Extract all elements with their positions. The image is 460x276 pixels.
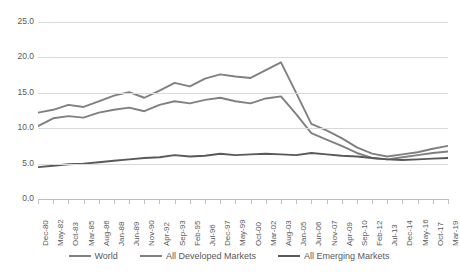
legend-label: All Emerging Markets: [304, 251, 390, 261]
x-axis-tick-label: Mar-19: [452, 221, 460, 246]
y-axis-tick-label: 0.0: [0, 194, 34, 203]
gridline: [38, 164, 448, 165]
x-axis-tick-label: Aug-86: [103, 220, 111, 246]
x-axis-tick-label: Dec-14: [406, 220, 414, 246]
x-axis-tick: [175, 199, 176, 204]
x-axis-tick: [84, 199, 85, 204]
x-axis-tick-label: Oct-00: [255, 222, 263, 246]
x-axis-tick: [235, 199, 236, 204]
x-axis-tick-label: Mar-02: [270, 221, 278, 246]
x-axis-tick-label: May-16: [422, 219, 430, 246]
x-axis-tick: [281, 199, 282, 204]
x-axis-tick: [190, 199, 191, 204]
y-axis-labels: 0.05.010.015.020.025.0: [0, 0, 34, 276]
plot-area: [38, 22, 448, 199]
x-axis-tick: [402, 199, 403, 204]
legend-swatch-icon: [69, 255, 91, 257]
x-axis-tick-label: Aug-03: [285, 220, 293, 246]
x-axis-tick-label: Apr-09: [346, 222, 354, 246]
x-axis-tick: [387, 199, 388, 204]
legend-swatch-icon: [278, 255, 300, 257]
x-axis-tick: [38, 199, 39, 204]
x-axis-tick: [144, 199, 145, 204]
x-axis-tick-label: Jul-96: [209, 224, 217, 246]
chart-legend: WorldAll Developed MarketsAll Emerging M…: [0, 251, 458, 261]
x-axis-tick-label: Apr-92: [163, 222, 171, 246]
y-axis-tick-label: 10.0: [0, 123, 34, 132]
x-axis-tick-label: Jan-88: [118, 222, 126, 246]
x-axis-tick: [114, 199, 115, 204]
x-axis-tick: [129, 199, 130, 204]
legend-item[interactable]: World: [69, 251, 118, 261]
x-axis-tick-label: Sep-93: [179, 220, 187, 246]
gridline: [38, 22, 448, 23]
x-axis-tick-label: Mar-85: [88, 221, 96, 246]
x-axis-tick-label: Jun-89: [133, 222, 141, 246]
series-lines: [38, 22, 448, 199]
x-axis-tick-label: Oct-17: [437, 222, 445, 246]
x-axis-tick-label: Dec-97: [224, 220, 232, 246]
y-axis-tick-label: 25.0: [0, 17, 34, 26]
x-axis-tick: [311, 199, 312, 204]
x-axis-tick-label: Jun-06: [315, 222, 323, 246]
x-axis-tick-label: Feb-95: [194, 221, 202, 246]
series-line: [38, 153, 448, 167]
x-axis-tick: [68, 199, 69, 204]
x-axis-tick: [159, 199, 160, 204]
x-axis-tick: [357, 199, 358, 204]
x-axis-labels: Dec-80May-82Oct-83Mar-85Aug-86Jan-88Jun-…: [38, 206, 448, 248]
x-axis-tick-label: May-82: [57, 219, 65, 246]
x-axis-tick: [372, 199, 373, 204]
x-axis-tick: [327, 199, 328, 204]
x-axis-tick-label: Oct-83: [72, 222, 80, 246]
legend-item[interactable]: All Developed Markets: [140, 251, 256, 261]
gridline: [38, 57, 448, 58]
y-axis-tick-label: 5.0: [0, 159, 34, 168]
legend-label: All Developed Markets: [166, 251, 256, 261]
x-axis-tick-label: Nov-07: [331, 220, 339, 246]
y-axis-tick-label: 15.0: [0, 88, 34, 97]
x-axis-tick: [53, 199, 54, 204]
x-axis-tick: [99, 199, 100, 204]
x-axis-tick: [433, 199, 434, 204]
legend-swatch-icon: [140, 255, 162, 257]
series-line: [38, 62, 448, 156]
legend-label: World: [95, 251, 118, 261]
x-axis-ticks: [38, 199, 448, 205]
x-axis-tick: [342, 199, 343, 204]
x-axis-tick: [266, 199, 267, 204]
legend-item[interactable]: All Emerging Markets: [278, 251, 390, 261]
x-axis-tick: [418, 199, 419, 204]
x-axis-tick-label: Jan-05: [300, 222, 308, 246]
gridline: [38, 93, 448, 94]
x-axis-tick-label: Feb-12: [376, 221, 384, 246]
x-axis-tick: [448, 199, 449, 204]
x-axis-tick-label: May-99: [239, 219, 247, 246]
x-axis-tick: [296, 199, 297, 204]
x-axis-tick: [220, 199, 221, 204]
x-axis-tick: [251, 199, 252, 204]
x-axis-tick-label: Dec-80: [42, 220, 50, 246]
y-axis-tick-label: 20.0: [0, 52, 34, 61]
gridline: [38, 128, 448, 129]
x-axis-tick-label: Sep-10: [361, 220, 369, 246]
x-axis-tick-label: Jul-13: [391, 224, 399, 246]
x-axis-tick: [205, 199, 206, 204]
x-axis-tick-label: Nov-90: [148, 220, 156, 246]
